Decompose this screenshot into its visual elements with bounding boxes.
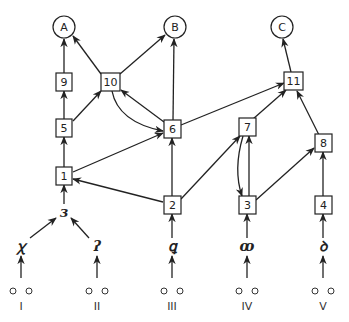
edge-gI-gmid xyxy=(30,218,56,238)
glyph-IV: ꝏ xyxy=(240,238,255,254)
sensor-circle-III-right xyxy=(177,288,183,294)
sensor-circle-II-right xyxy=(102,288,108,294)
box-node-11: 11 xyxy=(284,72,303,90)
box-label-9: 9 xyxy=(61,76,68,89)
box-node-8: 8 xyxy=(315,134,332,152)
output-label-B: B xyxy=(171,21,179,34)
output-label-C: C xyxy=(278,21,286,34)
box-node-7: 7 xyxy=(239,118,256,136)
edge-6-11 xyxy=(181,83,284,125)
edge-7-11 xyxy=(253,90,286,119)
sensor-circle-IV-left xyxy=(236,288,242,294)
glyph-V: ꝺ xyxy=(319,238,329,254)
edge-10-6-curved xyxy=(112,91,163,131)
box-label-8: 8 xyxy=(320,137,327,150)
box-node-4: 4 xyxy=(315,196,332,214)
input-label-II: II xyxy=(94,300,101,313)
sensor-circle-V-left xyxy=(312,288,318,294)
box-node-9: 9 xyxy=(56,73,72,91)
box-label-7: 7 xyxy=(244,121,251,134)
input-label-III: III xyxy=(167,300,177,313)
sensor-circle-V-right xyxy=(328,288,334,294)
box-label-10: 10 xyxy=(104,76,118,89)
output-node-C: C xyxy=(271,16,293,38)
edge-11-C xyxy=(283,39,291,72)
glyph-mid: ɜ xyxy=(59,204,68,220)
output-node-A: A xyxy=(53,16,75,38)
edge-10-A xyxy=(73,36,101,74)
glyph-I: ꭓ xyxy=(15,238,28,255)
edge-5-10 xyxy=(73,91,101,121)
box-node-10: 10 xyxy=(101,73,120,91)
input-label-V: V xyxy=(319,300,327,313)
edge-2-1 xyxy=(73,179,163,202)
input-sensors xyxy=(10,288,334,294)
sensor-circle-III-left xyxy=(161,288,167,294)
box-label-1: 1 xyxy=(61,170,68,183)
glyph-III: ꝗ xyxy=(168,238,178,255)
box-node-3: 3 xyxy=(239,196,256,214)
edge-6-10 xyxy=(121,90,164,122)
box-label-5: 5 xyxy=(61,122,68,135)
box-label-3: 3 xyxy=(244,199,251,212)
output-node-B: B xyxy=(164,16,186,38)
box-label-2: 2 xyxy=(169,199,176,212)
box-label-6: 6 xyxy=(169,123,176,136)
network-diagram: A B C 9 10 11 5 6 7 8 1 2 xyxy=(0,0,349,322)
input-label-I: I xyxy=(19,300,22,313)
edge-3-8 xyxy=(256,148,314,200)
box-node-1: 1 xyxy=(56,167,72,185)
edge-7-3-curved xyxy=(238,136,243,196)
output-label-A: A xyxy=(60,21,68,34)
sensor-circle-I-right xyxy=(26,288,32,294)
box-label-4: 4 xyxy=(320,199,327,212)
edge-2-7 xyxy=(181,136,240,199)
sensor-circle-II-left xyxy=(86,288,92,294)
edge-6-B xyxy=(173,39,174,120)
input-label-IV: IV xyxy=(242,300,253,313)
sensor-circle-I-left xyxy=(10,288,16,294)
glyph-II: ʔ xyxy=(93,238,101,254)
edge-8-11 xyxy=(297,91,319,135)
box-node-6: 6 xyxy=(164,120,181,138)
box-node-2: 2 xyxy=(164,196,181,214)
box-label-11: 11 xyxy=(287,75,301,88)
sensor-circle-IV-right xyxy=(252,288,258,294)
edge-1-6 xyxy=(73,133,163,172)
edge-10-B xyxy=(120,35,165,74)
edge-gII-gmid xyxy=(71,218,89,238)
box-node-5: 5 xyxy=(56,119,72,137)
